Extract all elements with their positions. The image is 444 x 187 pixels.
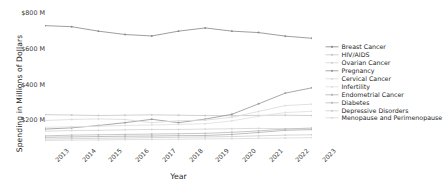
x-axis-tick-labels: 2013201420152016201720182019202020212022… <box>0 147 444 187</box>
legend-item-menopause-and-perimenopause[interactable]: Menopause and Perimenopause <box>325 114 443 122</box>
x-tick-label: 2018 <box>187 147 203 163</box>
x-tick-label: 2019 <box>214 147 230 163</box>
y-tick-label: $600 M <box>1 45 45 53</box>
plot-area <box>45 8 312 146</box>
legend-marker-icon <box>325 51 339 59</box>
legend-item-cervical-cancer[interactable]: Cervical Cancer <box>325 75 443 83</box>
legend-label: Ovarian Cancer <box>342 59 391 67</box>
legend-label: Menopause and Perimenopause <box>342 114 443 122</box>
legend-item-depressive-disorders[interactable]: Depressive Disorders <box>325 107 443 115</box>
legend-item-breast-cancer[interactable]: Breast Cancer <box>325 43 443 51</box>
legend-marker-icon <box>325 83 339 91</box>
legend-label: Infertility <box>342 83 370 91</box>
legend-item-infertility[interactable]: Infertility <box>325 83 443 91</box>
legend-label: Endometrial Cancer <box>342 91 404 99</box>
chart-legend: Breast CancerHIV/AIDSOvarian CancerPregn… <box>325 43 443 122</box>
legend-label: Pregnancy <box>342 67 375 75</box>
legend-item-endometrial-cancer[interactable]: Endometrial Cancer <box>325 91 443 99</box>
y-tick-label: $400 M <box>1 81 45 89</box>
legend-marker-icon <box>325 43 339 51</box>
x-tick-label: 2016 <box>134 147 150 163</box>
legend-label: HIV/AIDS <box>342 51 370 59</box>
x-tick-label: 2022 <box>294 147 310 163</box>
x-tick-label: 2021 <box>267 147 283 163</box>
x-tick-label: 2013 <box>54 147 70 163</box>
legend-label: Cervical Cancer <box>342 75 392 83</box>
x-tick-label: 2020 <box>241 147 257 163</box>
y-tick-label: $200 M <box>1 116 45 124</box>
legend-marker-icon <box>325 59 339 67</box>
x-tick-label: 2014 <box>80 147 96 163</box>
legend-label: Breast Cancer <box>342 43 386 51</box>
legend-item-hiv-aids[interactable]: HIV/AIDS <box>325 51 443 59</box>
line-chart-figure: Spending in Millions of Dollars $200 M$4… <box>0 0 444 187</box>
x-tick-label: 2015 <box>107 147 123 163</box>
series-cervical-cancer <box>45 103 312 123</box>
series-breast-cancer <box>45 25 312 40</box>
legend-marker-icon <box>325 91 339 99</box>
legend-marker-icon <box>325 67 339 75</box>
legend-marker-icon <box>325 114 339 122</box>
legend-marker-icon <box>325 75 339 83</box>
legend-item-diabetes[interactable]: Diabetes <box>325 99 443 107</box>
legend-marker-icon <box>325 99 339 107</box>
x-axis-title: Year <box>45 172 312 181</box>
y-tick-label: $800 M <box>1 9 45 17</box>
legend-item-pregnancy[interactable]: Pregnancy <box>325 67 443 75</box>
legend-marker-icon <box>325 107 339 115</box>
legend-label: Depressive Disorders <box>342 107 409 115</box>
legend-item-ovarian-cancer[interactable]: Ovarian Cancer <box>325 59 443 67</box>
x-tick-label: 2017 <box>160 147 176 163</box>
legend-label: Diabetes <box>342 99 370 107</box>
x-tick-label: 2023 <box>321 147 337 163</box>
